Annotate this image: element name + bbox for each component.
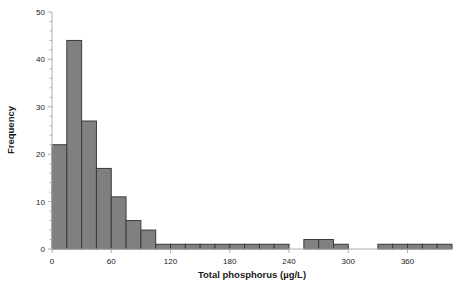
x-tick-label: 240	[282, 257, 296, 266]
x-tick-label: 180	[223, 257, 237, 266]
x-tick-label: 300	[342, 257, 356, 266]
histogram-bar	[67, 40, 82, 249]
histogram-bar	[393, 244, 408, 249]
histogram-bar	[215, 244, 230, 249]
y-tick-label: 0	[41, 245, 46, 254]
histogram-bar	[200, 244, 215, 249]
histogram-bar	[141, 230, 156, 249]
x-ticks-group: 060120180240300360	[50, 249, 415, 266]
histogram-bar	[52, 145, 67, 249]
y-axis-title: Frequency	[5, 105, 16, 154]
y-ticks-group: 01020304050	[36, 8, 52, 254]
histogram-bar	[96, 168, 111, 249]
histogram-bar	[333, 244, 348, 249]
x-tick-label: 360	[401, 257, 415, 266]
histogram-bar	[259, 244, 274, 249]
y-tick-label: 20	[36, 150, 45, 159]
y-tick-label: 40	[36, 55, 45, 64]
histogram-bar	[230, 244, 245, 249]
x-tick-label: 120	[164, 257, 178, 266]
histogram-bar	[408, 244, 423, 249]
histogram-bar	[319, 240, 334, 249]
histogram-bar	[378, 244, 393, 249]
histogram-bar	[185, 244, 200, 249]
histogram-bar	[274, 244, 289, 249]
histogram-bar	[126, 221, 141, 249]
histogram-bar	[111, 197, 126, 249]
y-tick-label: 30	[36, 103, 45, 112]
x-axis-title: Total phosphorus (µg/L)	[198, 269, 306, 280]
histogram-bar	[245, 244, 260, 249]
histogram-bar	[156, 244, 171, 249]
y-tick-label: 10	[36, 198, 45, 207]
chart-canvas: 01020304050 060120180240300360 Total pho…	[0, 0, 463, 288]
histogram-bar	[171, 244, 186, 249]
y-tick-label: 50	[36, 8, 45, 17]
x-tick-label: 60	[107, 257, 116, 266]
histogram-figure: 01020304050 060120180240300360 Total pho…	[0, 0, 463, 288]
histogram-bar	[422, 244, 437, 249]
histogram-bar	[82, 121, 97, 249]
histogram-bar	[304, 240, 319, 249]
histogram-bar	[437, 244, 452, 249]
bars-group	[52, 40, 452, 249]
x-tick-label: 0	[50, 257, 55, 266]
